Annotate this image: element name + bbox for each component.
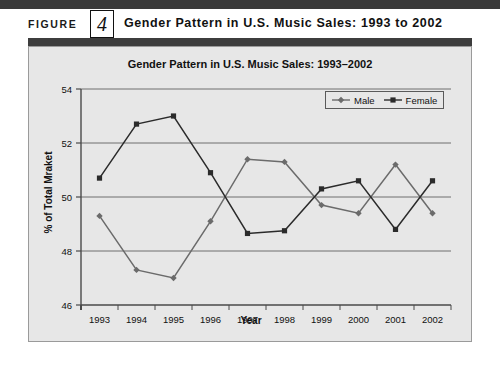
figure-number: 4 [91, 11, 113, 37]
chart-legend: MaleFemale [325, 91, 444, 109]
data-point-female-1996 [208, 170, 213, 175]
figure-header: FIGURE 4 Gender Pattern in U.S. Music Sa… [28, 14, 472, 38]
figure-title: Gender Pattern in U.S. Music Sales: 1993… [124, 16, 443, 30]
chart-panel: Gender Pattern in U.S. Music Sales: 1993… [28, 46, 472, 342]
y-axis-tick-label: 48 [61, 246, 72, 257]
data-point-female-1998 [282, 228, 287, 233]
data-point-female-2001 [393, 227, 398, 232]
legend-item-female: Female [384, 95, 438, 106]
data-point-female-1999 [319, 186, 324, 191]
data-point-female-1993 [97, 176, 102, 181]
data-point-female-2000 [356, 178, 361, 183]
figure-header-rule [28, 38, 472, 46]
series-line-male [100, 159, 433, 278]
figure-label: FIGURE [28, 18, 77, 30]
y-axis-tick-label: 50 [61, 192, 72, 203]
y-axis-tick-label: 46 [61, 300, 72, 311]
legend-label: Female [406, 95, 438, 106]
series-line-female [100, 116, 433, 233]
legend-marker-square-icon [384, 95, 402, 105]
legend-item-male: Male [332, 95, 375, 106]
data-point-female-1995 [171, 113, 176, 118]
y-axis-tick-label: 54 [61, 84, 72, 95]
data-point-male-1997 [244, 156, 250, 162]
legend-label: Male [354, 95, 375, 106]
legend-marker-diamond-icon [332, 95, 350, 105]
x-axis-label: Year [29, 315, 473, 326]
top-decorative-band [0, 0, 500, 9]
y-axis-label: % of Total Mraket [43, 133, 54, 253]
data-point-female-1994 [134, 122, 139, 127]
y-axis-tick-label: 52 [61, 138, 72, 149]
data-point-female-2002 [430, 178, 435, 183]
data-point-female-1997 [245, 231, 250, 236]
figure-number-box: 4 [90, 10, 114, 38]
